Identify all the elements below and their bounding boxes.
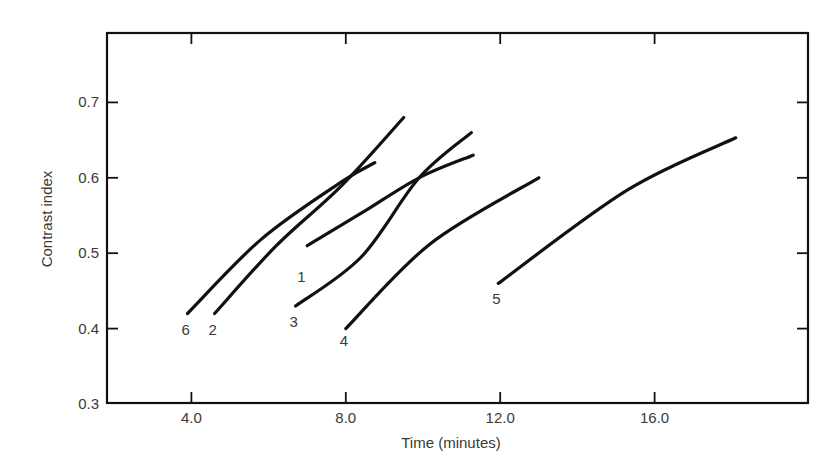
- curve-4: [346, 178, 539, 329]
- x-tick-label: 12.0: [486, 409, 515, 426]
- curve-label-4: 4: [340, 332, 348, 349]
- curve-label-6: 6: [181, 321, 189, 338]
- curve-label-5: 5: [492, 290, 500, 307]
- curve-label-3: 3: [290, 313, 298, 330]
- x-tick-label: 4.0: [181, 409, 202, 426]
- curve-label-1: 1: [297, 268, 305, 285]
- chart-canvas: 4.08.012.016.0 0.30.40.50.60.7 123456 Ti…: [0, 0, 840, 469]
- y-tick-label: 0.5: [78, 244, 99, 261]
- curve-5: [498, 138, 735, 284]
- x-tick-label: 8.0: [335, 409, 356, 426]
- x-tick-label: 16.0: [640, 409, 669, 426]
- data-curves: 123456: [181, 118, 735, 349]
- y-tick-label: 0.6: [78, 169, 99, 186]
- x-axis-ticks: 4.08.012.016.0: [181, 33, 669, 426]
- curve-3: [296, 133, 472, 306]
- curve-6: [188, 163, 375, 314]
- plot-border: [107, 33, 808, 403]
- curve-label-2: 2: [208, 321, 216, 338]
- y-tick-label: 0.7: [78, 93, 99, 110]
- curve-2: [215, 118, 404, 314]
- y-axis-title: Contrast index: [38, 170, 55, 267]
- y-tick-label: 0.3: [78, 395, 99, 412]
- plot-frame: [107, 33, 808, 403]
- y-axis-ticks: 0.30.40.50.60.7: [78, 93, 808, 412]
- x-axis-title: Time (minutes): [401, 434, 500, 451]
- y-tick-label: 0.4: [78, 320, 99, 337]
